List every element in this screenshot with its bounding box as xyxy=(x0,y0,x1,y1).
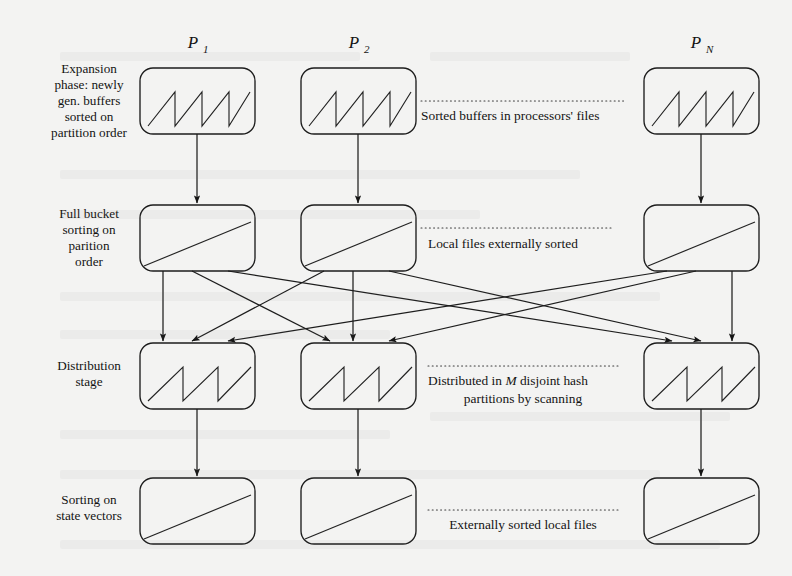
stage-label-line: gen. buffers xyxy=(58,93,121,108)
annotation-text: Externally sorted local files xyxy=(449,517,597,532)
annotation-externally-sorted: Externally sorted local files xyxy=(428,510,619,532)
column-header-p2-subscript: 2 xyxy=(364,43,370,55)
annotation-italic-m: M xyxy=(504,373,517,388)
node-fullbucket-pn[interactable] xyxy=(644,205,759,271)
connectors-fullbucket-to-distribution xyxy=(163,271,732,341)
sawtooth-glyph xyxy=(652,92,754,126)
stage-label-line: sorted on xyxy=(65,109,114,124)
annotation-text-part: Distributed in xyxy=(428,373,505,388)
annotation-local-files-sorted: Local files externally sorted xyxy=(421,228,612,251)
annotation-text: Distributed in M disjoint hash xyxy=(428,373,588,388)
row-state-vectors: Sorting on state vectors Externally sort… xyxy=(56,478,759,544)
row-distribution: Distribution stage Distributed in M disj… xyxy=(57,343,759,409)
connectors-distribution-to-statevectors xyxy=(197,409,701,476)
node-expansion-pn[interactable] xyxy=(644,68,759,134)
stage-label-line: order xyxy=(75,254,103,269)
figure-canvas: P 1 P 2 P N Expansion phase: newly gen. … xyxy=(0,0,792,576)
column-header-p2-letter: P xyxy=(348,33,359,52)
sawtooth-glyph xyxy=(148,92,250,126)
node-distribution-pn[interactable] xyxy=(644,343,759,409)
node-box xyxy=(644,68,759,134)
annotation-distributed-hash: Distributed in M disjoint hash partition… xyxy=(428,366,619,406)
connectors-expansion-to-fullbucket xyxy=(197,134,701,203)
stage-label-line: Expansion xyxy=(61,61,117,76)
column-header-pn-letter: P xyxy=(690,33,701,52)
node-fullbucket-p2[interactable] xyxy=(301,205,416,271)
stage-label-line: Sorting on xyxy=(61,492,117,507)
sawtooth-glyph xyxy=(309,367,412,401)
node-statevectors-pn[interactable] xyxy=(644,478,759,544)
stage-label-line: Distribution xyxy=(57,358,121,373)
diagonal-glyph xyxy=(305,222,412,266)
sawtooth-glyph xyxy=(148,367,251,401)
node-fullbucket-p1[interactable] xyxy=(140,205,255,271)
node-box xyxy=(644,343,759,409)
stage-label-line: stage xyxy=(75,374,102,389)
diagonal-glyph xyxy=(144,222,251,266)
column-header-p1: P 1 xyxy=(187,33,209,55)
stage-label-line: Full bucket xyxy=(59,206,119,221)
stage-label-line: state vectors xyxy=(56,508,122,523)
column-header-p2: P 2 xyxy=(348,33,370,55)
sawtooth-glyph xyxy=(309,92,411,126)
column-header-pn: P N xyxy=(690,33,714,55)
node-box xyxy=(301,343,416,409)
row-state-vectors-stage-label: Sorting on state vectors xyxy=(56,492,122,523)
stage-label-line: sorting on xyxy=(62,222,116,237)
row-distribution-stage-label: Distribution stage xyxy=(57,358,121,389)
diagonal-glyph xyxy=(305,495,412,539)
node-distribution-p2[interactable] xyxy=(301,343,416,409)
node-box xyxy=(140,343,255,409)
pipeline-diagram: P 1 P 2 P N Expansion phase: newly gen. … xyxy=(0,0,792,576)
sawtooth-glyph xyxy=(652,367,755,401)
node-statevectors-p2[interactable] xyxy=(301,478,416,544)
node-statevectors-p1[interactable] xyxy=(140,478,255,544)
node-distribution-p1[interactable] xyxy=(140,343,255,409)
diagonal-glyph xyxy=(648,222,755,266)
row-expansion-stage-label: Expansion phase: newly gen. buffers sort… xyxy=(51,61,127,140)
row-full-bucket-stage-label: Full bucket sorting on parition order xyxy=(59,206,119,269)
annotation-text: partitions by scanning xyxy=(464,391,583,406)
diagonal-glyph xyxy=(648,495,755,539)
node-box xyxy=(301,68,416,134)
row-expansion: Expansion phase: newly gen. buffers sort… xyxy=(51,61,759,140)
column-header-p1-subscript: 1 xyxy=(203,43,209,55)
stage-label-line: partition order xyxy=(51,125,127,140)
node-expansion-p2[interactable] xyxy=(301,68,416,134)
column-header-pn-subscript: N xyxy=(705,43,714,55)
node-expansion-p1[interactable] xyxy=(140,68,255,134)
stage-label-line: phase: newly xyxy=(54,77,124,92)
column-headers: P 1 P 2 P N xyxy=(187,33,714,55)
annotation-text: Sorted buffers in processors' files xyxy=(421,108,599,123)
annotation-sorted-buffers: Sorted buffers in processors' files xyxy=(421,101,626,123)
diagonal-glyph xyxy=(144,495,251,539)
row-full-bucket: Full bucket sorting on parition order Lo… xyxy=(59,205,759,271)
annotation-text-part: disjoint hash xyxy=(517,373,589,388)
stage-label-line: parition xyxy=(68,238,109,253)
column-header-p1-letter: P xyxy=(187,33,198,52)
annotation-text: Local files externally sorted xyxy=(428,236,578,251)
node-box xyxy=(140,68,255,134)
